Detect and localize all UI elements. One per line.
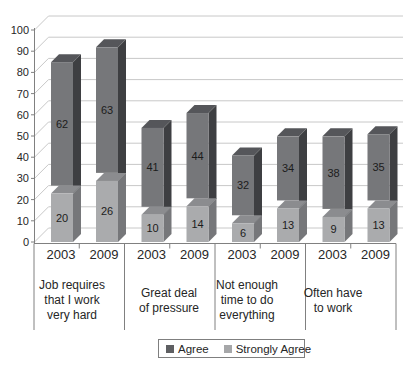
category-group-label-line: everything — [219, 308, 274, 322]
bar-side-strongly-agree — [118, 173, 126, 242]
y-axis-tick-label: 30 — [17, 172, 29, 184]
bar-side-agree — [299, 128, 307, 208]
y-axis-tick-label: 50 — [17, 130, 29, 142]
gridline-depth-segment — [35, 16, 49, 30]
bar-value-label-agree: 32 — [237, 179, 249, 191]
gridline-depth-segment — [35, 101, 49, 115]
gridline-depth-segment — [35, 186, 49, 200]
gridline-depth-segment — [35, 207, 49, 221]
category-group-label-line: Not enough — [216, 278, 278, 292]
bar-value-label-strongly-agree: 9 — [330, 223, 336, 235]
category-year-label: 2009 — [90, 247, 119, 262]
chart-figure: 01020304050607080901006220200363262009Jo… — [0, 0, 416, 365]
y-axis-tick-label: 40 — [17, 151, 29, 163]
category-group-label-line: Great deal — [141, 286, 197, 300]
bar-value-label-strongly-agree: 13 — [372, 219, 384, 231]
bar-value-label-agree: 34 — [282, 162, 294, 174]
chart-canvas: 01020304050607080901006220200363262009Jo… — [0, 0, 416, 365]
category-year-label: 2003 — [47, 247, 76, 262]
category-year-label: 2003 — [318, 247, 347, 262]
y-axis-tick-label: 70 — [17, 88, 29, 100]
bar-side-agree — [345, 128, 353, 217]
bar-side-agree — [164, 120, 172, 215]
bar-value-label-strongly-agree: 20 — [56, 212, 68, 224]
gridline-depth-segment — [35, 80, 49, 94]
category-year-label: 2009 — [180, 247, 209, 262]
bar-value-label-agree: 63 — [101, 104, 113, 116]
bar-side-agree — [73, 54, 81, 193]
category-group-label-line: Job requires — [39, 278, 105, 292]
category-group-label-line: very hard — [47, 308, 97, 322]
bar-side-agree — [209, 105, 217, 206]
gridline-depth-segment — [35, 122, 49, 136]
bar-value-label-agree: 44 — [191, 150, 203, 162]
bar-value-label-strongly-agree: 14 — [191, 218, 203, 230]
bar-side-strongly-agree — [73, 186, 81, 242]
legend-label-agree: Agree — [178, 343, 209, 355]
gridline-depth-segment — [35, 58, 49, 72]
bar-value-label-strongly-agree: 13 — [282, 219, 294, 231]
category-year-label: 2003 — [228, 247, 257, 262]
legend-swatch-strongly-agree — [224, 345, 232, 353]
bar-value-label-agree: 35 — [372, 161, 384, 173]
legend-item-agree: Agree — [166, 343, 209, 355]
bar-side-agree — [118, 39, 126, 181]
bar-side-agree — [254, 147, 262, 223]
y-axis-tick-label: 90 — [17, 45, 29, 57]
legend-swatch-agree — [166, 345, 174, 353]
gridline-depth-segment — [35, 164, 49, 178]
bar-value-label-strongly-agree: 26 — [101, 205, 113, 217]
category-year-label: 2009 — [361, 247, 390, 262]
bar-value-label-strongly-agree: 6 — [240, 227, 246, 239]
bar-side-agree — [390, 126, 398, 208]
gridline-depth-segment — [35, 143, 49, 157]
category-group-label-line: time to do — [221, 293, 274, 307]
bar-value-label-strongly-agree: 10 — [146, 222, 158, 234]
legend-item-strongly-agree: Strongly Agree — [224, 343, 311, 355]
gridline-depth-segment — [35, 37, 49, 51]
legend: Agree Strongly Agree — [158, 339, 305, 358]
bar-value-label-agree: 41 — [146, 161, 158, 173]
category-year-label: 2009 — [271, 247, 300, 262]
category-group-label-line: that I work — [44, 293, 100, 307]
bar-value-label-agree: 62 — [56, 118, 68, 130]
gridline-depth-segment — [35, 228, 49, 242]
y-axis-tick-label: 80 — [17, 66, 29, 78]
category-group-label-line: to work — [314, 301, 354, 315]
bar-value-label-agree: 38 — [327, 167, 339, 179]
category-group-label-line: of pressure — [139, 301, 199, 315]
y-axis-tick-label: 60 — [17, 109, 29, 121]
y-axis-tick-label: 10 — [17, 215, 29, 227]
category-group-label-line: Often have — [304, 286, 363, 300]
y-axis-tick-label: 100 — [11, 24, 29, 36]
legend-label-strongly-agree: Strongly Agree — [236, 343, 311, 355]
category-year-label: 2003 — [137, 247, 166, 262]
y-axis-tick-label: 0 — [23, 236, 29, 248]
y-axis-tick-label: 20 — [17, 194, 29, 206]
